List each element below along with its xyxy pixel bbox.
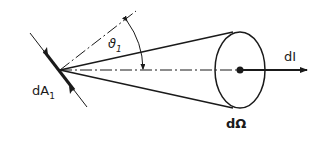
cone-edge-bottom <box>60 70 233 108</box>
radiation-cone-diagram: ϑ1 dA1 dΩ dI <box>0 0 321 144</box>
area-element-label: dA1 <box>32 83 55 101</box>
cone-edge-top <box>60 32 233 70</box>
intensity-label: dI <box>284 49 296 64</box>
solid-angle-label: dΩ <box>226 116 246 131</box>
angle-label: ϑ1 <box>108 36 122 54</box>
angle-arc <box>127 21 143 69</box>
